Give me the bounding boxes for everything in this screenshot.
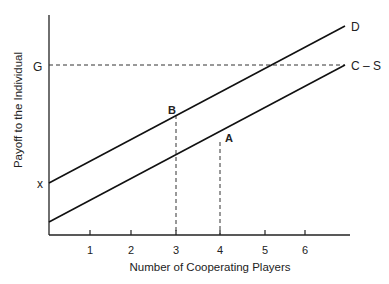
y-axis-title: Payoff to the Individual: [12, 52, 24, 168]
series-cs-line: [49, 65, 345, 222]
point-a-label: A: [225, 132, 233, 144]
svg-text:5: 5: [262, 244, 268, 256]
series-d-label: D: [351, 20, 360, 34]
svg-text:3: 3: [173, 244, 179, 256]
chart: D C – S G x B A 1 2 3 4 5 6 Number of Co…: [0, 0, 389, 284]
y-label-x: x: [37, 177, 43, 191]
point-b-label: B: [168, 104, 176, 116]
svg-text:4: 4: [217, 244, 223, 256]
series-cs-label: C – S: [351, 59, 381, 73]
svg-text:2: 2: [128, 244, 134, 256]
series-d-line: [49, 26, 345, 183]
svg-text:1: 1: [87, 244, 93, 256]
svg-text:6: 6: [302, 244, 308, 256]
x-ticks: [90, 230, 305, 235]
x-axis-title: Number of Cooperating Players: [129, 261, 290, 273]
y-label-g: G: [33, 60, 42, 74]
x-tick-labels: 1 2 3 4 5 6: [87, 244, 308, 256]
